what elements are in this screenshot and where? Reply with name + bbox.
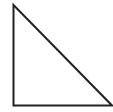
right-triangle xyxy=(14,5,113,106)
diagram-canvas xyxy=(0,0,113,112)
